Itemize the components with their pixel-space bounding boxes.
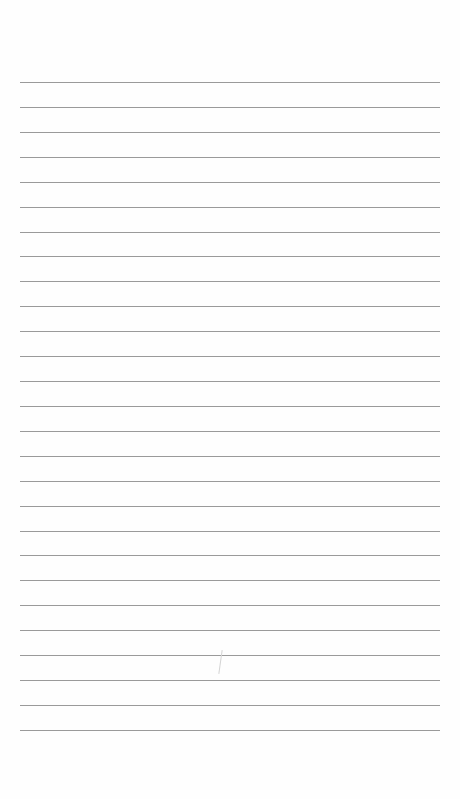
ruled-line [20,555,440,556]
ruled-line [20,481,440,482]
lined-paper-page [0,0,460,799]
ruled-line [20,580,440,581]
ruled-line [20,331,440,332]
ruled-line [20,132,440,133]
faint-pencil-mark [218,650,222,674]
ruled-line [20,730,440,731]
ruled-line [20,456,440,457]
ruled-line [20,232,440,233]
ruled-line [20,680,440,681]
ruled-line [20,356,440,357]
ruled-line [20,256,440,257]
ruled-line [20,381,440,382]
ruled-line [20,506,440,507]
ruled-line [20,531,440,532]
ruled-line [20,431,440,432]
ruled-line [20,306,440,307]
ruled-line [20,182,440,183]
ruled-line [20,82,440,83]
ruled-line [20,705,440,706]
ruled-line [20,406,440,407]
ruled-line [20,281,440,282]
ruled-line [20,630,440,631]
ruled-line [20,605,440,606]
ruled-line [20,157,440,158]
ruled-line [20,655,440,656]
ruled-line [20,107,440,108]
ruled-line [20,207,440,208]
